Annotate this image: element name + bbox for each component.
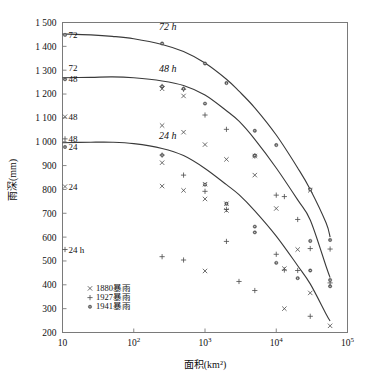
edge-label: 24 h	[69, 245, 85, 255]
x-axis-title: 面积(km²)	[184, 359, 226, 371]
fitted-curves	[63, 34, 331, 321]
y-tick-label: 1 400	[35, 42, 57, 52]
y-axis-tick-labels: 2003004005006007008009001 0001 1001 2001…	[35, 18, 57, 338]
data-point-markers	[160, 42, 333, 328]
point-+	[282, 267, 287, 272]
point-*	[275, 143, 278, 146]
point-+	[181, 173, 186, 178]
point-+	[236, 279, 241, 284]
point-*	[253, 129, 256, 132]
point-x	[160, 184, 164, 188]
point-*	[160, 153, 163, 156]
edge-label: 48	[69, 74, 79, 84]
point-*	[225, 202, 228, 205]
point-x	[203, 197, 207, 201]
point-x	[274, 206, 278, 210]
point-*	[328, 278, 331, 281]
edge-marker-+	[62, 247, 67, 252]
edge-label: 24	[69, 142, 79, 152]
point-*	[160, 42, 163, 45]
point-+	[308, 246, 313, 251]
point-x	[160, 123, 164, 127]
y-tick-label: 700	[42, 209, 57, 219]
point-+	[252, 288, 257, 293]
point-+	[224, 207, 229, 212]
point-x	[203, 142, 207, 146]
edge-label: 48	[69, 112, 79, 122]
y-axis-title: 雨深(mm)	[7, 159, 19, 201]
x-tick-label: 102	[127, 336, 141, 348]
y-tick-label: 600	[42, 233, 57, 243]
y-tick-label: 500	[42, 256, 57, 266]
curve-label: 48 h	[159, 63, 177, 74]
edge-label: 24	[69, 182, 79, 192]
edge-marker-*	[63, 78, 66, 81]
point-+	[295, 217, 300, 222]
rainfall-depth-area-chart: 2003004005006007008009001 0001 1001 2001…	[0, 0, 377, 379]
point-*	[328, 285, 331, 288]
point-+	[274, 193, 279, 198]
point-*	[182, 87, 185, 90]
point-+	[224, 127, 229, 132]
curve-label: 24 h	[159, 130, 177, 141]
curve-48-h	[63, 77, 331, 278]
point-*	[296, 276, 299, 279]
curve-72-h	[63, 34, 331, 237]
point-*	[203, 102, 206, 105]
point-x	[181, 188, 185, 192]
point-+	[202, 112, 207, 117]
edge-marker-x	[63, 184, 67, 188]
point-+	[328, 246, 333, 251]
point-x	[282, 306, 286, 310]
point-*	[253, 154, 256, 157]
x-axis-ticks	[63, 329, 348, 333]
point-*	[225, 81, 228, 84]
point-*	[309, 239, 312, 242]
point-x	[328, 324, 332, 328]
x-tick-label: 10	[58, 338, 68, 348]
point-+	[274, 252, 279, 257]
y-tick-label: 800	[42, 185, 57, 195]
legend-marker-*	[88, 305, 91, 308]
y-tick-label: 900	[42, 161, 57, 171]
x-tick-label: 103	[199, 336, 213, 348]
point-x	[181, 94, 185, 98]
point-*	[160, 85, 163, 88]
curve-label: 72 h	[159, 21, 177, 32]
x-tick-label: 104	[270, 336, 284, 348]
edge-marker-+	[62, 136, 67, 141]
point-x	[181, 130, 185, 134]
edge-marker-*	[63, 145, 66, 148]
point-*	[328, 238, 331, 241]
y-tick-label: 1 200	[35, 89, 57, 99]
legend-marker-x	[88, 286, 92, 290]
point-*	[309, 188, 312, 191]
point-x	[295, 247, 299, 251]
y-tick-label: 1 500	[35, 18, 57, 28]
point-+	[202, 189, 207, 194]
legend-label: 1941暴雨	[96, 301, 131, 311]
point-x	[308, 291, 312, 295]
point-*	[309, 269, 312, 272]
point-+	[308, 314, 313, 319]
point-*	[253, 225, 256, 228]
chart-figure: 2003004005006007008009001 0001 1001 2001…	[0, 0, 377, 379]
y-axis-ticks	[63, 23, 67, 333]
x-axis-tick-labels: 10102103104105	[58, 336, 355, 348]
y-tick-label: 1 000	[35, 137, 57, 147]
y-tick-label: 300	[42, 304, 57, 314]
y-tick-label: 400	[42, 280, 57, 290]
point-*	[275, 261, 278, 264]
chart-legend: 1880暴雨1927暴雨1941暴雨	[87, 283, 131, 311]
point-*	[203, 183, 206, 186]
edge-label: 72	[69, 30, 78, 40]
legend-marker-+	[87, 295, 92, 300]
point-x	[253, 173, 257, 177]
y-tick-label: 200	[42, 328, 57, 338]
edge-marker-*	[63, 33, 66, 36]
point-x	[224, 157, 228, 161]
y-tick-label: 1 100	[35, 113, 57, 123]
point-+	[181, 257, 186, 262]
point-x	[203, 269, 207, 273]
point-+	[282, 194, 287, 199]
